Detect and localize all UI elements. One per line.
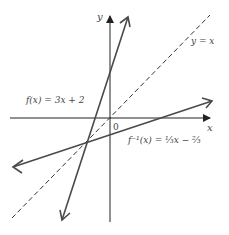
- x-axis-label: x: [207, 122, 213, 133]
- arrowhead-icon: [13, 160, 23, 173]
- f-label: f(x) = 3x + 2: [25, 95, 85, 105]
- f-inverse-label: f⁻¹(x) = ⅓x − ⅔: [127, 135, 201, 145]
- origin-label: 0: [113, 122, 119, 132]
- identity-line: [12, 15, 210, 218]
- identity-label: y = x: [190, 36, 214, 46]
- function-inverse-graph: y x 0 f(x) = 3x + 2 f⁻¹(x) = ⅓x − ⅔ y = …: [0, 0, 229, 235]
- y-axis-label: y: [96, 11, 103, 22]
